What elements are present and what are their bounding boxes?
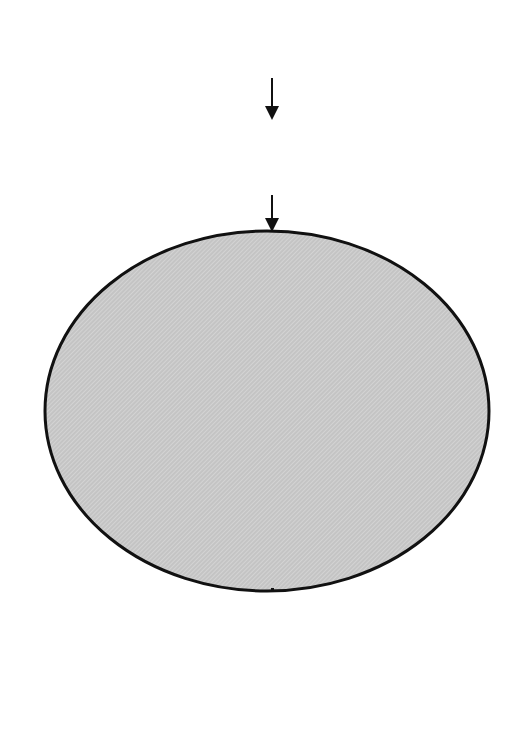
diagram-connectors	[0, 0, 531, 740]
context-ellipse	[45, 231, 489, 591]
